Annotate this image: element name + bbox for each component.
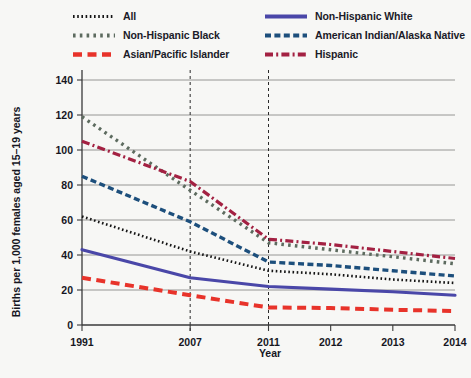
legend-swatch-non-hispanic-white (264, 8, 308, 25)
x-tick-label: 2013 (381, 336, 405, 348)
y-tick-label: 20 (61, 284, 73, 296)
y-tick-label: 0 (67, 319, 73, 331)
y-axis-title: Births per 1,000 females aged 15–19 year… (10, 106, 22, 317)
legend-label-hispanic: Hispanic (315, 49, 358, 60)
legend-swatch-hispanic (264, 46, 308, 63)
x-tick-label: 2007 (178, 336, 202, 348)
legend-column-left: All Non-Hispanic Black Asian/Pacific Isl… (72, 8, 229, 65)
y-tick-label: 100 (55, 144, 73, 156)
legend-column-right: Non-Hispanic White American Indian/Alask… (264, 8, 465, 65)
legend-swatch-american-indian-alaska-native (264, 27, 308, 44)
chart-container: All Non-Hispanic Black Asian/Pacific Isl… (0, 0, 471, 378)
legend-item-all: All (72, 8, 229, 25)
plot-area-wrapper: 020406080100120140 199120072011201220132… (0, 62, 471, 378)
legend-label-non-hispanic-black: Non-Hispanic Black (123, 30, 220, 41)
x-tick-label: 2012 (319, 336, 343, 348)
y-tick-label: 60 (61, 214, 73, 226)
legend-swatch-asian-pacific-islander (72, 46, 116, 63)
legend-label-non-hispanic-white: Non-Hispanic White (315, 11, 412, 22)
legend-item-hispanic: Hispanic (264, 46, 465, 63)
legend-swatch-non-hispanic-black (72, 27, 116, 44)
reference-lines (190, 70, 268, 331)
legend-item-american-indian-alaska-native: American Indian/Alaska Native (264, 27, 465, 44)
x-tick-label: 2014 (443, 336, 467, 348)
legend-item-asian-pacific-islander: Asian/Pacific Islander (72, 46, 229, 63)
grid-lines (77, 80, 455, 325)
chart-legend: All Non-Hispanic Black Asian/Pacific Isl… (0, 0, 471, 62)
y-tick-label: 40 (61, 249, 73, 261)
y-tick-label: 120 (55, 109, 73, 121)
legend-label-asian-pacific-islander: Asian/Pacific Islander (123, 49, 229, 60)
legend-item-non-hispanic-black: Non-Hispanic Black (72, 27, 229, 44)
plot-svg: 020406080100120140 199120072011201220132… (0, 62, 471, 378)
y-tick-label: 140 (55, 74, 73, 86)
legend-label-american-indian-alaska-native: American Indian/Alaska Native (315, 30, 465, 41)
x-tick-label: 1991 (70, 336, 94, 348)
y-axis-tick-labels: 020406080100120140 (55, 74, 73, 331)
y-tick-label: 80 (61, 179, 73, 191)
x-axis-title: Year (259, 347, 281, 359)
legend-label-all: All (123, 11, 136, 22)
legend-swatch-all (72, 8, 116, 25)
legend-item-non-hispanic-white: Non-Hispanic White (264, 8, 465, 25)
